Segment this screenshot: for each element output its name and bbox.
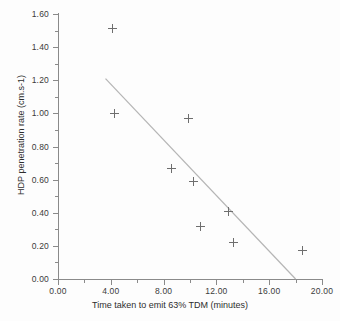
y-axis-title: HDP penetration rate (cm.s-1) <box>16 10 26 260</box>
scatter-chart: 0.000.200.400.600.801.001.201.401.60 0.0… <box>0 0 340 321</box>
trend-line <box>0 0 340 321</box>
x-axis-title: Time taken to emit 63% TDM (minutes) <box>0 300 340 310</box>
